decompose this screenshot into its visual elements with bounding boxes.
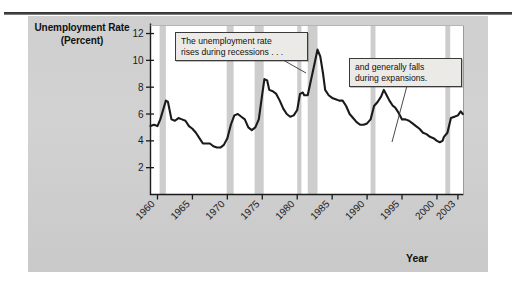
annotation-recessions: The unemployment rate rises during reces… [175, 32, 308, 61]
y-tick-label: 12 [132, 28, 144, 39]
annotation-expansions: and generally falls during expansions. [349, 58, 462, 87]
x-tick-label: 1965 [168, 198, 192, 222]
x-tick-label: 2000 [413, 198, 437, 222]
x-axis-ticks: 1960196519701975198019851990199520002003 [133, 195, 458, 222]
x-tick-label: 1990 [343, 198, 367, 222]
x-tick-label: 1980 [273, 198, 297, 222]
x-tick-label: 1985 [308, 198, 332, 222]
x-tick-label: 1975 [238, 198, 262, 222]
x-tick-label: 1970 [203, 198, 227, 222]
recession-band [308, 26, 318, 195]
y-tick-label: 4 [138, 135, 144, 146]
x-tick-label: 1960 [133, 198, 157, 222]
y-tick-label: 8 [138, 82, 144, 93]
y-tick-label: 6 [138, 109, 144, 120]
y-tick-label: 10 [132, 55, 144, 66]
y-tick-label: 2 [138, 162, 144, 173]
x-tick-label: 1995 [378, 198, 402, 222]
recession-band [445, 26, 450, 195]
x-tick-label: 2003 [434, 198, 458, 222]
x-axis-title: Year [406, 252, 428, 264]
unemployment-rate-figure: Unemployment Rate (Percent) 246810121960… [0, 0, 516, 287]
